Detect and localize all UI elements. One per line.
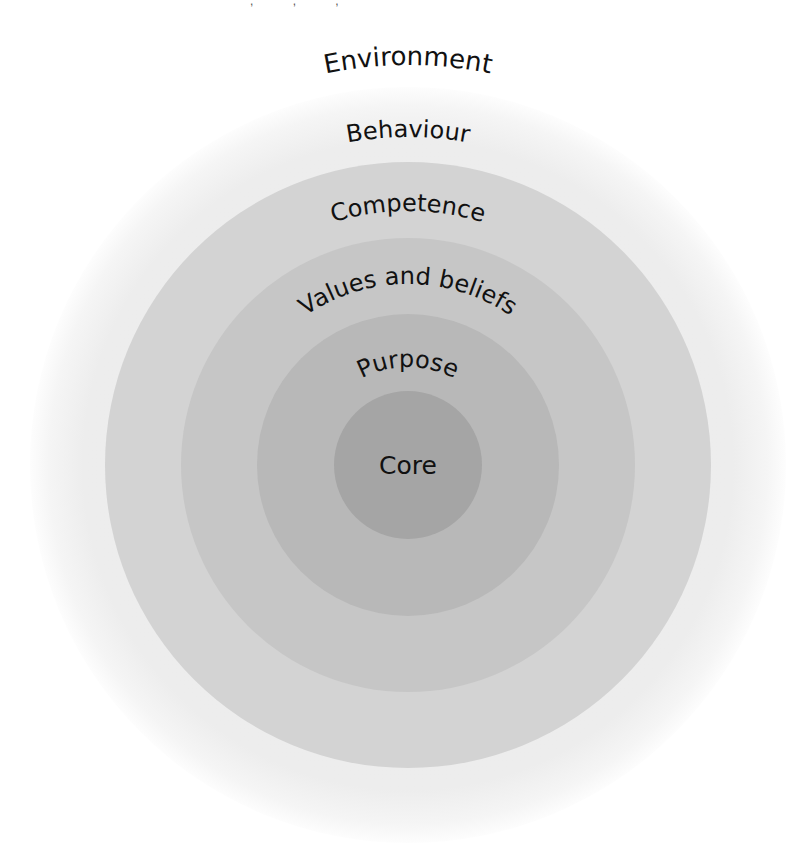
concentric-circles-diagram: Environment Behaviour Competence Values … <box>0 0 798 865</box>
environment-label-text: Environment <box>321 41 495 80</box>
environment-label: Environment <box>321 41 495 80</box>
core-label: Core <box>379 451 437 480</box>
